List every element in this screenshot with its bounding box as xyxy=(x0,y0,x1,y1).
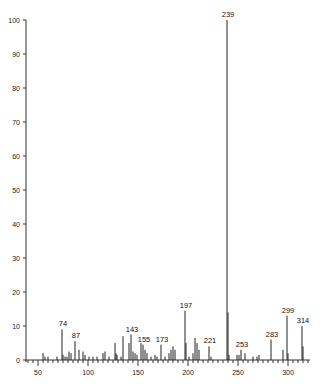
y-tick-label: 90 xyxy=(12,51,20,58)
y-tick-label: 30 xyxy=(12,255,20,262)
x-tick-label: 100 xyxy=(82,369,94,376)
peak-label: 283 xyxy=(266,330,279,339)
peak-label: 253 xyxy=(236,340,249,349)
y-tick-label: 70 xyxy=(12,119,20,126)
peak-label: 87 xyxy=(72,331,80,340)
y-tick-label: 80 xyxy=(12,85,20,92)
peak-label: 143 xyxy=(126,325,139,334)
x-axis: 50100150200250300 xyxy=(26,360,310,376)
peak-label: 314 xyxy=(297,316,310,325)
x-tick-label: 150 xyxy=(132,369,144,376)
y-tick-label: 100 xyxy=(8,17,20,24)
peak-label: 173 xyxy=(156,335,169,344)
y-tick-label: 40 xyxy=(12,221,20,228)
peak-label: 155 xyxy=(138,335,151,344)
peak-labels: 7487143155173197221239253283299314 xyxy=(59,10,309,349)
peak-label: 74 xyxy=(59,319,67,328)
x-tick-label: 250 xyxy=(232,369,244,376)
y-tick-label: 60 xyxy=(12,153,20,160)
y-tick-label: 10 xyxy=(12,323,20,330)
peak-label: 299 xyxy=(282,306,295,315)
x-tick-label: 200 xyxy=(182,369,194,376)
peak-label: 239 xyxy=(222,10,235,19)
y-tick-label: 0 xyxy=(16,357,20,364)
peaks xyxy=(43,20,303,360)
peak-label: 221 xyxy=(204,336,217,345)
peak-label: 197 xyxy=(180,301,193,310)
y-tick-label: 50 xyxy=(12,187,20,194)
x-tick-label: 300 xyxy=(282,369,294,376)
y-axis: 0102030405060708090100 xyxy=(8,17,26,364)
mass-spectrum-chart: 0102030405060708090100 50100150200250300… xyxy=(0,0,322,392)
y-tick-label: 20 xyxy=(12,289,20,296)
x-tick-label: 50 xyxy=(34,369,42,376)
